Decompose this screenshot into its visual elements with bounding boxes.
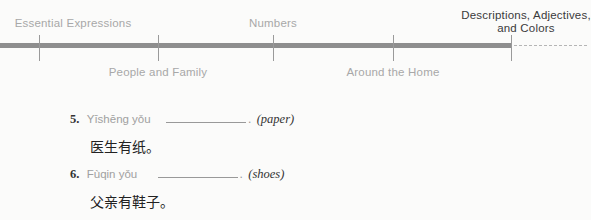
timeline-tick bbox=[393, 35, 394, 61]
chinese-sentence: 父亲有鞋子。 bbox=[90, 191, 174, 211]
answer-blank[interactable] bbox=[166, 113, 246, 123]
chinese-sentence: 医生有纸。 bbox=[90, 136, 160, 156]
timeline-tick bbox=[511, 35, 512, 61]
current-chapter-line1: Descriptions, Adjectives, bbox=[461, 9, 591, 22]
timeline-progress-bar bbox=[0, 43, 511, 48]
timeline-label-numbers: Numbers bbox=[249, 17, 297, 29]
timeline-label-essential-expressions: Essential Expressions bbox=[15, 17, 132, 29]
timeline-label-around-the-home: Around the Home bbox=[346, 66, 439, 78]
exercise-prompt: 5. Yīshēng yǒu . (paper) bbox=[70, 112, 294, 127]
answer-blank[interactable] bbox=[158, 168, 238, 178]
exercise-number: 5. bbox=[70, 112, 79, 126]
pinyin-text: Fùqin yǒu bbox=[87, 168, 138, 180]
hint-text: (shoes) bbox=[248, 167, 284, 181]
hint-text: (paper) bbox=[257, 112, 295, 126]
timeline-tick bbox=[273, 35, 274, 61]
exercise-prompt: 6. Fùqin yǒu . (shoes) bbox=[70, 167, 284, 182]
timeline-tick bbox=[158, 35, 159, 61]
timeline-label-current-chapter: Descriptions, Adjectives, and Colors bbox=[461, 9, 591, 35]
pinyin-text: Yīshēng yǒu bbox=[87, 113, 151, 125]
timeline-remaining-dashed bbox=[514, 45, 587, 46]
timeline-label-people-and-family: People and Family bbox=[109, 66, 208, 78]
current-chapter-line2: and Colors bbox=[461, 22, 591, 35]
exercise-number: 6. bbox=[70, 167, 79, 181]
timeline-tick bbox=[39, 35, 40, 61]
